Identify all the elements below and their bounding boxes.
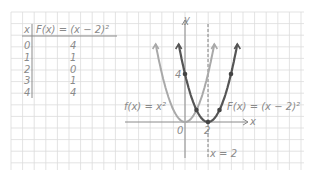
table-cell: 4 (24, 87, 30, 98)
table-header-x: x (23, 24, 30, 35)
label-F: F(x) = (x − 2)² (227, 101, 300, 112)
table-cell: 0 (24, 40, 30, 51)
table-cell: 0 (70, 64, 76, 75)
graph-paper: x F(x) = (x − 2)² 0 4 1 1 2 0 3 1 4 4 y … (0, 0, 316, 180)
x-axis-label: x (249, 116, 256, 127)
tick-0: 0 (177, 125, 183, 136)
table-cell: 1 (24, 52, 30, 63)
tick-2: 2 (204, 125, 210, 136)
table-cell: 4 (70, 87, 76, 98)
table-cell: 4 (70, 40, 76, 51)
tick-4: 4 (175, 69, 181, 80)
table-cell: 2 (24, 64, 30, 75)
label-f: f(x) = x² (124, 101, 166, 112)
table-cell: 1 (70, 52, 76, 63)
table-cell: 3 (24, 75, 30, 86)
y-axis-label: y (183, 14, 191, 25)
label-asymptote: x = 2 (209, 148, 237, 159)
table-cell: 1 (70, 75, 76, 86)
table-header-f: F(x) = (x − 2)² (36, 24, 109, 35)
